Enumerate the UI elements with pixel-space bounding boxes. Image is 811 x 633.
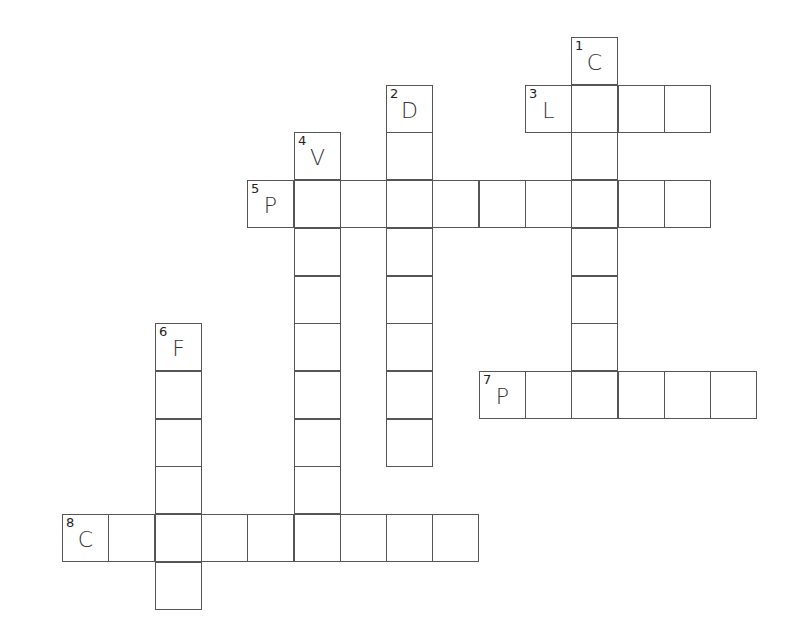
crossword-cell[interactable] [664, 371, 711, 419]
cell-letter: C [572, 52, 617, 74]
crossword-cell[interactable] [710, 371, 757, 419]
crossword-cell[interactable] [155, 562, 202, 610]
crossword-cell[interactable] [571, 228, 618, 276]
crossword-grid: 1C2D3L4V5P6F7P8C [0, 0, 811, 633]
cell-letter: P [248, 195, 293, 217]
crossword-cell[interactable] [386, 371, 433, 419]
crossword-cell[interactable] [386, 180, 433, 228]
clue-number: 6 [159, 325, 167, 338]
crossword-cell[interactable] [294, 371, 341, 419]
crossword-cell[interactable] [247, 514, 294, 562]
crossword-cell[interactable] [386, 323, 433, 371]
cell-letter: P [480, 386, 525, 408]
crossword-cell[interactable] [525, 180, 572, 228]
crossword-cell[interactable] [386, 514, 433, 562]
crossword-cell[interactable] [664, 180, 711, 228]
crossword-cell[interactable] [340, 180, 387, 228]
crossword-cell[interactable] [294, 180, 341, 228]
crossword-cell[interactable] [618, 371, 665, 419]
crossword-cell[interactable] [525, 371, 572, 419]
crossword-cell[interactable]: 5P [247, 180, 294, 228]
crossword-cell[interactable] [386, 419, 433, 467]
cell-letter: C [63, 529, 108, 551]
crossword-cell[interactable]: 1C [571, 37, 618, 85]
crossword-cell[interactable] [155, 419, 202, 467]
crossword-cell[interactable] [571, 276, 618, 324]
crossword-cell[interactable] [386, 228, 433, 276]
crossword-cell[interactable]: 3L [525, 85, 572, 133]
clue-number: 5 [251, 182, 259, 195]
clue-number: 3 [529, 87, 537, 100]
cell-letter: L [526, 100, 571, 122]
crossword-cell[interactable]: 2D [386, 85, 433, 133]
crossword-cell[interactable] [571, 132, 618, 180]
crossword-cell[interactable] [294, 514, 341, 562]
crossword-cell[interactable] [294, 276, 341, 324]
crossword-cell[interactable] [294, 466, 341, 514]
crossword-cell[interactable] [571, 180, 618, 228]
crossword-cell[interactable] [432, 180, 479, 228]
crossword-cell[interactable] [571, 323, 618, 371]
crossword-cell[interactable] [294, 228, 341, 276]
crossword-cell[interactable] [340, 514, 387, 562]
clue-number: 4 [298, 134, 306, 147]
crossword-cell[interactable] [108, 514, 155, 562]
crossword-cell[interactable] [386, 276, 433, 324]
crossword-cell[interactable] [479, 180, 526, 228]
crossword-cell[interactable] [386, 132, 433, 180]
crossword-cell[interactable] [201, 514, 248, 562]
cell-letter: D [387, 100, 432, 122]
clue-number: 7 [483, 373, 491, 386]
crossword-cell[interactable] [155, 514, 202, 562]
crossword-cell[interactable] [294, 419, 341, 467]
crossword-cell[interactable]: 7P [479, 371, 526, 419]
crossword-cell[interactable]: 4V [294, 132, 341, 180]
crossword-cell[interactable]: 6F [155, 323, 202, 371]
crossword-cell[interactable] [571, 371, 618, 419]
crossword-cell[interactable] [664, 85, 711, 133]
cell-letter: F [156, 338, 201, 360]
crossword-cell[interactable] [618, 85, 665, 133]
clue-number: 8 [66, 516, 74, 529]
crossword-cell[interactable] [571, 85, 618, 133]
clue-number: 1 [575, 39, 583, 52]
crossword-cell[interactable] [618, 180, 665, 228]
crossword-cell[interactable] [155, 466, 202, 514]
crossword-cell[interactable] [294, 323, 341, 371]
cell-letter: V [295, 147, 340, 169]
crossword-cell[interactable] [155, 371, 202, 419]
clue-number: 2 [390, 87, 398, 100]
crossword-cell[interactable] [432, 514, 479, 562]
crossword-cell[interactable]: 8C [62, 514, 109, 562]
